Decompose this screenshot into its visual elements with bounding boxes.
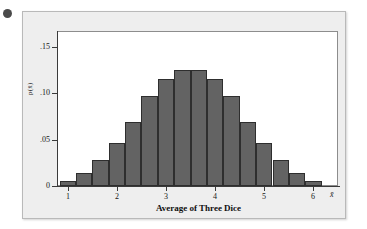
x-axis-tick-label: 2 — [108, 192, 126, 201]
y-axis-tick-label: .05 — [24, 136, 50, 144]
x-axis-tick-label: 3 — [157, 192, 175, 201]
x-axis-tick — [68, 186, 69, 191]
y-axis-tick-labels: 0.05.10.15 — [18, 0, 50, 229]
x-axis-tick-label: 1 — [59, 192, 77, 201]
histogram-bar — [174, 70, 190, 186]
x-axis-tick — [215, 186, 216, 191]
x-axis-tick — [264, 186, 265, 191]
y-axis-title: p(x̄) — [26, 83, 34, 95]
x-axis-end-symbol: x̄ — [330, 190, 334, 199]
histogram-bar — [76, 173, 92, 186]
histogram-bar — [109, 143, 125, 186]
x-axis-tick — [117, 186, 118, 191]
y-axis-tick — [52, 93, 58, 94]
histogram-bars-layer — [57, 31, 338, 186]
histogram-figure: 0.05.10.15 p(x̄) x̄ Average of Three Dic… — [0, 0, 367, 229]
y-axis-tick-label: 0 — [24, 182, 50, 190]
histogram-bar — [256, 143, 272, 186]
histogram-bar — [125, 122, 141, 186]
histogram-bar — [158, 79, 174, 186]
x-axis-tick-label: 4 — [206, 192, 224, 201]
y-axis-tick — [52, 140, 58, 141]
x-axis-title: Average of Three Dice — [57, 203, 340, 213]
histogram-bar — [223, 96, 239, 186]
histogram-bar — [273, 160, 289, 186]
y-axis-line — [57, 31, 58, 186]
histogram-bar — [240, 122, 256, 186]
histogram-bar — [191, 70, 207, 186]
y-axis-tick — [52, 186, 58, 187]
x-axis-tick — [313, 186, 314, 191]
x-axis-tick-label: 6 — [304, 192, 322, 201]
histogram-bar — [289, 173, 305, 186]
y-axis-tick-label: .15 — [24, 43, 50, 51]
bullet-marker-icon — [3, 9, 12, 18]
x-axis-tick-label: 5 — [255, 192, 273, 201]
histogram-bar — [207, 79, 223, 186]
y-axis-tick — [52, 47, 58, 48]
x-axis-line — [57, 186, 340, 187]
x-axis-tick — [166, 186, 167, 191]
histogram-bar — [92, 160, 108, 186]
histogram-bar — [141, 96, 157, 186]
